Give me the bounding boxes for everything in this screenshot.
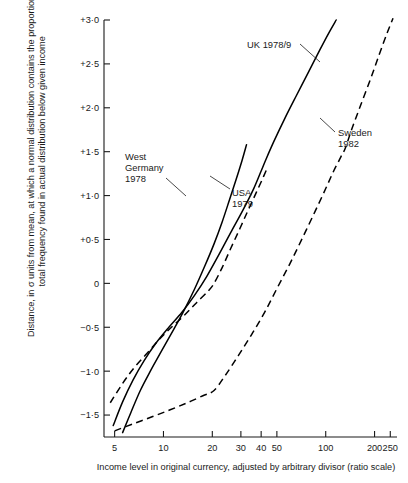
series-label-uk: UK 1978/9 xyxy=(247,39,291,50)
y-tick-label: +3·0 xyxy=(80,15,99,25)
leader-west-germany xyxy=(166,178,186,196)
x-tick-label: 50 xyxy=(272,443,282,453)
x-tick-label: 30 xyxy=(236,443,246,453)
series-label-west-germany-line1: West xyxy=(125,151,147,162)
series-label-west-germany-line2: Germany xyxy=(125,162,164,173)
series-label-sweden-line1: Sweden xyxy=(338,127,372,138)
x-axis-title: Income level in original currency, adjus… xyxy=(97,462,396,472)
x-tick-label: 40 xyxy=(256,443,266,453)
y-tick-label: −1·5 xyxy=(80,410,99,420)
y-axis-title-line2: total frequency found in actual distribu… xyxy=(37,0,48,361)
x-tick-label: 250 xyxy=(383,443,398,453)
annotation-leader-lines xyxy=(166,44,335,196)
x-tick-label: 10 xyxy=(158,443,168,453)
series-curve-uk-1978-9 xyxy=(113,20,336,426)
y-tick-label: −0·5 xyxy=(80,323,99,333)
series-curve-sweden-1982 xyxy=(115,18,393,431)
y-tick-label: +0·5 xyxy=(80,235,99,245)
x-tick-label: 20 xyxy=(207,443,217,453)
y-tick-label: +1·0 xyxy=(80,191,99,201)
x-tick-label: 200 xyxy=(367,443,382,453)
y-tick-label: −1·0 xyxy=(80,367,99,377)
x-tick-label: 100 xyxy=(318,443,333,453)
y-tick-label: +2·5 xyxy=(80,59,99,69)
series-label-usa-line1: USA xyxy=(232,187,252,198)
x-axis-ticks: 51020304050100200250 xyxy=(112,431,398,453)
series-label-usa-line2: 1979 xyxy=(232,198,253,209)
y-axis-title: Distance, in σ units from mean, at which… xyxy=(26,0,49,361)
series-label-sweden-line2: 1982 xyxy=(338,138,359,149)
leader-uk xyxy=(300,44,320,62)
y-axis-ticks: +3·0+2·5+2·0+1·5+1·0+0·50−0·5−1·0−1·5 xyxy=(80,15,110,420)
y-tick-label: 0 xyxy=(94,279,99,289)
leader-usa xyxy=(210,176,230,189)
series-label-west-germany-line3: 1978 xyxy=(125,173,146,184)
x-tick-label: 5 xyxy=(112,443,117,453)
leader-sweden xyxy=(320,118,335,132)
chart-figure: Distance, in σ units from mean, at which… xyxy=(0,0,408,483)
chart-svg: +3·0+2·5+2·0+1·5+1·0+0·50−0·5−1·0−1·5 51… xyxy=(0,0,408,483)
y-tick-label: +1·5 xyxy=(80,147,99,157)
y-axis-title-line1: Distance, in σ units from mean, at which… xyxy=(26,0,37,361)
y-tick-label: +2·0 xyxy=(80,103,99,113)
series-annotations: West Germany 1978 UK 1978/9 USA 1979 Swe… xyxy=(125,39,372,209)
data-curves xyxy=(110,18,393,432)
